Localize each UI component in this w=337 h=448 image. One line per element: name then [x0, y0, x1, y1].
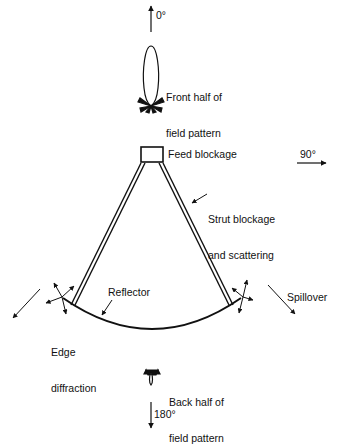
reflector-label: Reflector — [108, 286, 150, 298]
left-edge-diffraction-rays — [46, 283, 74, 314]
back-pattern-lobe-icon — [144, 370, 160, 385]
right-edge-diffraction-rays — [232, 280, 253, 313]
front-pattern-label-line1: Front half of — [166, 91, 222, 103]
front-pattern-label-line2: field pattern — [166, 127, 222, 139]
back-pattern-label-line1: Back half of — [169, 396, 224, 408]
feed-blockage-label: Feed blockage — [168, 148, 237, 160]
edge-diffraction-label-line2: diffraction — [51, 382, 96, 394]
strut-label: Strut blockage and scattering — [208, 189, 275, 273]
front-pattern-lobe-icon — [138, 46, 164, 113]
back-angle-label: 180° — [154, 408, 176, 420]
front-pattern-label: Front half of field pattern — [166, 67, 222, 151]
back-pattern-label: Back half of field pattern — [169, 372, 224, 448]
reflector-leader-arrow — [102, 300, 112, 315]
edge-diffraction-label: Edge diffraction — [51, 322, 96, 406]
feed-horn — [141, 147, 163, 162]
front-angle-label: 0° — [156, 9, 166, 21]
side-angle-label: 90° — [300, 148, 316, 160]
left-spillover-arrow — [13, 289, 40, 318]
strut-leader-arrow — [192, 194, 207, 203]
strut-label-line1: Strut blockage — [208, 213, 275, 225]
left-strut — [71, 163, 145, 305]
strut-label-line2: and scattering — [208, 249, 275, 261]
back-pattern-label-line2: field pattern — [169, 432, 224, 444]
spillover-label: Spillover — [287, 291, 327, 303]
edge-diffraction-label-line1: Edge — [51, 346, 96, 358]
